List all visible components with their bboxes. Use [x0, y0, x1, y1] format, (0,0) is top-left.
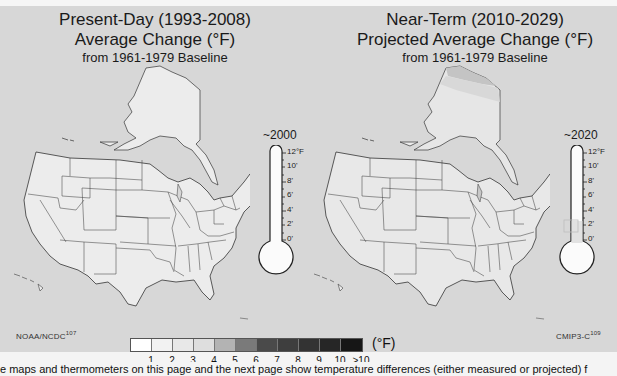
right-year-label: ~2020	[564, 128, 598, 142]
left-tick-10: 10'	[287, 161, 297, 170]
left-us-map	[0, 60, 250, 330]
color-scale-legend	[130, 338, 363, 352]
left-tick-4: 4'	[287, 205, 293, 214]
legend-swatch	[131, 339, 152, 351]
legend-swatch	[173, 339, 194, 351]
left-tick-12: 12°F	[287, 147, 304, 156]
legend-swatch	[152, 339, 173, 351]
right-tick-8: 8'	[588, 176, 594, 185]
left-title-period: Present-Day (1993-2008)	[40, 10, 270, 30]
legend-swatch	[257, 339, 278, 351]
right-map-title: Near-Term (2010-2029) Projected Average …	[340, 10, 610, 66]
right-title-measure: Projected Average Change (°F)	[340, 30, 610, 50]
right-tick-4: 4'	[588, 205, 594, 214]
right-source-credit: CMIP3-C109	[556, 330, 601, 341]
right-tick-12: 12°F	[588, 147, 605, 156]
legend-swatch	[320, 339, 341, 351]
legend-swatch	[299, 339, 320, 351]
right-tick-2: 2'	[588, 219, 594, 228]
left-thermometer-ticks	[282, 153, 286, 240]
caption-text: e maps and thermometers on this page and…	[0, 362, 617, 376]
right-title-period: Near-Term (2010-2029)	[340, 10, 610, 30]
left-source-credit: NOAA/NCDC107	[16, 330, 76, 341]
right-tick-6: 6'	[588, 190, 594, 199]
legend-swatch	[194, 339, 215, 351]
legend-swatch	[341, 339, 362, 351]
right-source-text: CMIP3-C	[556, 332, 590, 341]
legend-swatch	[236, 339, 257, 351]
left-year-label: ~2000	[263, 128, 297, 142]
left-tick-2: 2'	[287, 219, 293, 228]
left-source-text: NOAA/NCDC	[16, 332, 66, 341]
legend-unit: (°F)	[372, 335, 395, 351]
legend-swatch	[278, 339, 299, 351]
left-source-ref: 107	[66, 330, 77, 336]
right-source-ref: 109	[590, 330, 601, 336]
left-tick-0: 0'	[287, 234, 293, 243]
left-tick-8: 8'	[287, 176, 293, 185]
legend-swatch	[215, 339, 236, 351]
left-tick-6: 6'	[287, 190, 293, 199]
right-us-map	[300, 60, 550, 330]
right-tick-10: 10'	[588, 161, 598, 170]
right-tick-0: 0'	[588, 234, 594, 243]
left-title-measure: Average Change (°F)	[40, 30, 270, 50]
left-map-title: Present-Day (1993-2008) Average Change (…	[40, 10, 270, 66]
